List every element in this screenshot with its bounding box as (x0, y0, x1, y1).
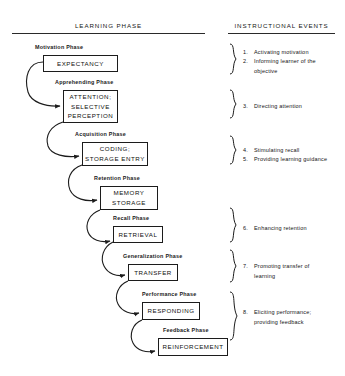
phase-label-5: Generalization Phase (123, 253, 183, 259)
phase-label-0: Motivation Phase (35, 44, 83, 50)
phase-label-2: Acquisition Phase (75, 131, 126, 137)
event-text-1: Informing learner of the objective (254, 57, 316, 76)
stage-box-1[interactable]: ATTENTION; SELECTIVE PERCEPTION (63, 90, 118, 123)
event-number-7: 8. (243, 308, 254, 318)
event-text-6: Promoting transfer of learning (254, 262, 310, 281)
event-text-2: Directing attention (254, 102, 302, 112)
event-number-5: 6. (243, 224, 254, 234)
stage-box-3[interactable]: MEMORY STORAGE (100, 186, 158, 210)
event-text-4: Providing learning guidance (254, 155, 327, 165)
event-text-7: Eliciting performance; providing feedbac… (254, 308, 311, 327)
stage-box-6[interactable]: RESPONDING (142, 302, 200, 320)
event-row-2: 3.Directing attention (243, 102, 302, 112)
event-number-1: 2. (243, 57, 254, 67)
phase-label-6: Performance Phase (142, 291, 197, 297)
event-row-1: 2.Informing learner of the objective (243, 57, 316, 76)
stage-box-5[interactable]: TRANSFER (128, 264, 178, 281)
event-row-6: 7.Promoting transfer of learning (243, 262, 310, 281)
event-number-2: 3. (243, 102, 254, 112)
phase-label-3: Retention Phase (94, 175, 140, 181)
event-text-5: Enhancing retention (254, 224, 307, 234)
event-row-7: 8.Eliciting performance; providing feedb… (243, 308, 311, 327)
event-row-4: 5.Providing learning guidance (243, 155, 327, 165)
phase-label-4: Recall Phase (113, 215, 149, 221)
learning-phase-diagram: LEARNING PHASE INSTRUCTIONAL EVENTS (0, 0, 345, 376)
stage-box-7[interactable]: REINFORCEMENT (158, 338, 228, 356)
event-number-4: 5. (243, 155, 254, 165)
stage-box-2[interactable]: CODING; STORAGE ENTRY (82, 142, 148, 166)
event-row-5: 6.Enhancing retention (243, 224, 307, 234)
stage-box-0[interactable]: EXPECTANCY (43, 55, 118, 72)
stage-box-4[interactable]: RETRIEVAL (113, 226, 163, 243)
phase-label-7: Feedback Phase (163, 327, 209, 333)
phase-label-1: Apprehending Phase (55, 79, 113, 85)
event-number-6: 7. (243, 262, 254, 272)
